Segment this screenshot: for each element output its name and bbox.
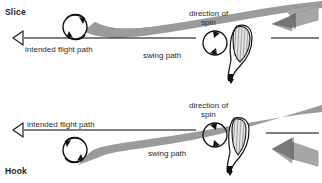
hollow-left-arrow-slice [13, 31, 23, 45]
panel-slice: Slice intended flight path swing path di… [5, 1, 322, 84]
swing-arrow-shaft-hook [292, 142, 318, 166]
panel-hook: Hook intended flight path swing path dir… [5, 101, 322, 176]
panel-title-hook: Hook [5, 166, 27, 176]
golf-slice-hook-diagram: Slice intended flight path swing path di… [0, 0, 322, 183]
swing-path-tail-slice [84, 22, 150, 37]
label-intended-flight-path-slice: intended flight path [25, 45, 93, 54]
label-direction-of-spin-line1-hook: direction of [189, 101, 229, 110]
panel-title-slice: Slice [5, 7, 26, 17]
hollow-left-arrow-hook [13, 123, 23, 137]
label-intended-flight-path-hook: intended flight path [27, 120, 95, 129]
label-direction-of-spin-line2-slice: spin [201, 18, 216, 27]
club-head-hook [227, 118, 249, 176]
label-direction-of-spin-line2-hook: spin [201, 110, 216, 119]
label-swing-path-slice: swing path [143, 51, 181, 60]
label-direction-of-spin-line1-slice: direction of [189, 9, 229, 18]
label-swing-path-hook: swing path [148, 149, 186, 158]
club-head-slice [228, 25, 252, 84]
